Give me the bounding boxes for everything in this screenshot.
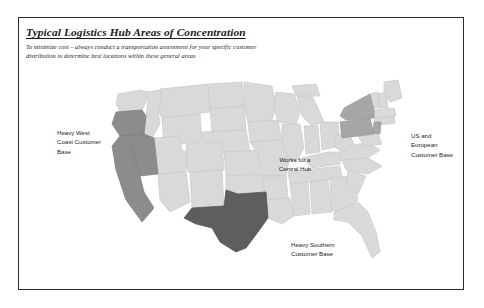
state-wisconsin	[274, 92, 300, 124]
state-iowa	[248, 120, 282, 142]
state-oklahoma	[226, 174, 266, 194]
state-new-york-highlight	[340, 94, 374, 120]
state-minnesota	[244, 82, 276, 122]
state-idaho	[144, 90, 162, 138]
callout-heavy-southern: Heavy Southern Customer Base	[291, 240, 367, 259]
subtitle-line-2: distribution to determine best locations…	[26, 51, 326, 60]
callout-central-hub: Works for a Central Hub	[264, 155, 326, 174]
callout-us-and-european: US and European Customer Base	[411, 131, 477, 159]
callout-heavy-west-coast: Heavy West Coast Customer Base	[57, 128, 127, 156]
slide-canvas: Typical Logistics Hub Areas of Concentra…	[0, 0, 484, 308]
subtitle-block: To minimize cost – always conduct a tran…	[26, 42, 326, 61]
state-new-mexico	[190, 170, 224, 208]
state-colorado	[186, 142, 224, 172]
state-washington	[116, 90, 148, 112]
state-new-jersey-highlight	[373, 122, 381, 134]
state-north-dakota	[208, 82, 244, 109]
state-south-dakota	[210, 106, 246, 132]
us-map-icon	[96, 72, 416, 272]
us-map-graphic	[96, 72, 416, 272]
state-kansas	[224, 150, 260, 176]
state-arizona	[158, 172, 190, 212]
subtitle-line-1: To minimize cost – always conduct a tran…	[26, 43, 257, 50]
state-rhode-island	[389, 116, 395, 124]
state-louisiana	[266, 198, 294, 224]
page-title: Typical Logistics Hub Areas of Concentra…	[26, 26, 246, 38]
state-michigan-up	[292, 84, 320, 96]
state-alabama	[310, 180, 332, 214]
state-montana	[158, 84, 210, 118]
state-indiana	[304, 126, 320, 154]
